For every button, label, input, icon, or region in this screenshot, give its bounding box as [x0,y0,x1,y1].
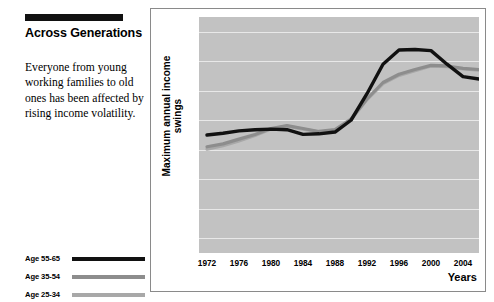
legend-label: Age 55-65 [25,254,72,263]
x-axis-tick-label: 2004 [443,258,483,268]
title-rule [25,14,123,21]
legend-item: Age 35-54 [25,270,145,283]
article-deck: Everyone from young working families to … [25,60,145,122]
chart-legend: Age 55-65 Age 35-54 Age 25-34 [25,252,145,302]
legend-swatch-age-55-65 [72,257,145,261]
legend-item: Age 25-34 [25,288,145,301]
plot-area [199,17,479,253]
series-line-age-55-65 [207,49,479,135]
page-title: Across Generations [25,26,143,42]
chart-panel: Maximum annual income swings 5%10%15%20%… [150,8,486,292]
series-line-age-35-54 [207,65,479,146]
legend-item: Age 55-65 [25,252,145,265]
legend-swatch-age-25-34 [72,293,145,297]
legend-swatch-age-35-54 [72,275,145,279]
legend-label: Age 35-54 [25,272,72,281]
legend-label: Age 25-34 [25,290,72,299]
editorial-panel: Across Generations Everyone from young w… [0,0,150,302]
x-axis-label: Years [448,271,477,283]
series-layer [199,17,479,253]
y-axis-label: Maximum annual income swings [161,51,183,181]
figure-container: Across Generations Everyone from young w… [0,0,494,302]
